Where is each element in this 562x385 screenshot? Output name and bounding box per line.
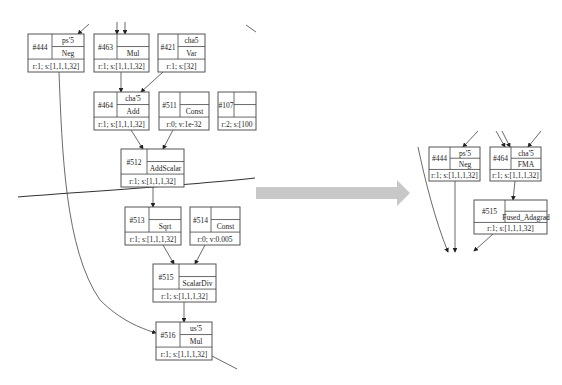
graph-node: #464cha'5FMAr:1; s:[1,1,1,32] [490,147,541,181]
node-info: r:1; s:[1,1,1,32] [161,292,208,301]
graph-node: #512AddScalarr:1; s:[1,1,1,32] [121,149,184,187]
node-info: r:1; s:[1,1,1,32] [487,224,534,233]
node-info: r:1; s:[1,1,1,32] [431,171,478,180]
graph-node: #464cha'5Addr:1; s:[1,1,1,32] [94,92,149,130]
node-id: #512 [127,158,142,167]
graph-node: #444ps'5Negr:1; s:[1,1,1,32] [28,34,84,72]
transform-arrow-icon [256,180,410,206]
graph-node: #511Constr:0; v:1e-32 [159,92,209,130]
graph-node: #444ps'5Negr:1; s:[1,1,1,32] [429,147,480,181]
fusion-diagram: #444ps'5Negr:1; s:[1,1,1,32]#463Mulr:1; … [0,0,562,385]
graph-node: #516us'5Mulr:1; s:[1,1,1,32] [156,322,212,360]
node-id: #421 [161,43,176,52]
graph-node: #107r:2; s:[100 [218,92,256,130]
after-graph: #444ps'5Negr:1; s:[1,1,1,32]#464cha'5FMA… [429,147,550,234]
node-id: #515 [482,207,497,216]
node-op: Mul [127,49,140,58]
node-id: #515 [159,273,174,282]
node-id: #513 [130,216,145,225]
node-op: Var [186,49,197,58]
node-op: Neg [459,160,472,169]
node-id: #514 [193,216,208,225]
node-op: Add [127,107,140,116]
node-var: ps'5 [62,36,74,45]
before-edges [59,22,256,369]
node-info: r:2; s:[100 [221,120,252,129]
node-info: r:0; v:1e-32 [166,120,201,129]
node-var: cha5 [184,36,198,45]
node-var: cha'5 [125,94,141,103]
graph-node: #463Mulr:1; s:[1,1,1,32] [94,34,149,72]
node-id: #444 [432,154,447,163]
node-info: r:1; s:[1,1,1,32] [129,177,176,186]
node-id: #464 [98,101,113,110]
node-info: r:1; s:[1,1,1,32] [98,62,145,71]
graph-node: #421cha5Varr:1; s:[32] [158,34,205,72]
node-op: ScalarDiv [183,279,213,288]
node-id: #464 [493,154,508,163]
node-op: Fused_Adagrad [502,213,550,222]
node-info: r:0; v:0.005 [198,235,233,244]
graph-node: #515Fused_Adagradr:1; s:[1,1,1,32] [474,200,550,234]
before-graph: #444ps'5Negr:1; s:[1,1,1,32]#463Mulr:1; … [28,34,256,360]
node-op: Neg [62,49,75,58]
node-info: r:1; s:[32] [167,62,197,71]
node-id: #511 [162,101,177,110]
graph-node: #513Sqrtr:1; s:[1,1,1,32] [125,207,181,245]
node-info: r:1; s:[1,1,1,32] [130,235,177,244]
node-info: r:1; s:[1,1,1,32] [492,171,539,180]
node-op: Const [217,222,235,231]
node-id: #516 [161,331,176,340]
graph-node: #514Constr:0; v:0.005 [190,207,240,245]
node-op: AddScalar [150,164,182,173]
node-var: ps'5 [459,149,471,158]
node-info: r:1; s:[1,1,1,32] [161,350,208,359]
node-info: r:1; s:[1,1,1,32] [98,120,145,129]
node-var: us'5 [190,324,202,333]
node-op: Mul [190,337,203,346]
node-op: Sqrt [159,222,172,231]
node-var: cha'5 [518,149,534,158]
node-info: r:1; s:[1,1,1,32] [33,62,80,71]
node-id: #107 [219,101,234,110]
graph-node: #515ScalarDivr:1; s:[1,1,1,32] [153,264,216,302]
node-id: #463 [98,43,113,52]
node-id: #444 [33,43,48,52]
node-op: Const [186,107,204,116]
node-op: FMA [518,160,535,169]
